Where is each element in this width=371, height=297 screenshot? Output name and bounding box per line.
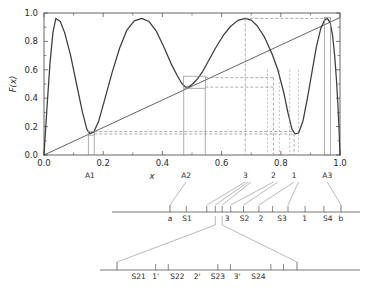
marked-point-label: 2 [271, 171, 276, 180]
figure-root: 0.00.20.40.60.81.00.00.20.40.60.81.0xF(x… [0, 0, 371, 297]
row1-row2-connector [215, 182, 248, 205]
x-tick-label: 0.4 [156, 158, 170, 168]
row3-segment-label: 1' [152, 272, 159, 281]
row3-segment-label: 3' [234, 272, 241, 281]
row2-segment-label: S4 [323, 214, 333, 223]
row1-row2-connector [244, 182, 278, 205]
figure-svg: 0.00.20.40.60.81.00.00.20.40.60.81.0xF(x… [0, 0, 371, 297]
row2-segment-label: S1 [182, 214, 192, 223]
y-tick-label: 0.8 [24, 36, 38, 46]
row2-label-b: b [339, 214, 344, 223]
x-tick-label: 0.6 [215, 158, 229, 168]
fixed-point-label: A3 [322, 171, 332, 180]
row1-row2-connector [288, 182, 299, 205]
row2-segment-label: 2 [259, 214, 264, 223]
row2-segment-label: S3 [277, 214, 287, 223]
fixed-point-label: A1 [85, 171, 95, 180]
y-tick-label: 1.0 [24, 8, 38, 18]
row3-segment-label: 2' [194, 272, 201, 281]
row2-row3-connector-left [117, 225, 215, 262]
row1-row2-connector [170, 182, 186, 205]
y-tick-label: 0.0 [24, 150, 38, 160]
marked-point-label: 3 [243, 171, 248, 180]
x-axis-label: x [148, 171, 155, 181]
x-tick-label: 0.8 [274, 158, 288, 168]
marked-point-label: 1 [292, 171, 297, 180]
fixed-point-box [325, 17, 331, 155]
x-tick-label: 1.0 [333, 158, 347, 168]
row3-segment-label: S23 [211, 272, 226, 281]
row3-segment-label: S24 [251, 272, 266, 281]
y-tick-label: 0.2 [24, 122, 38, 132]
row3-segment-label: S21 [131, 272, 146, 281]
row2-segment-label: 3 [225, 214, 230, 223]
row2-label-a: a [168, 214, 173, 223]
y-tick-label: 0.4 [24, 93, 38, 103]
x-tick-label: 0.2 [96, 158, 110, 168]
row2-segment-label: 1 [302, 214, 307, 223]
row1-row2-connector [327, 182, 341, 205]
x-tick-label: 0.0 [37, 158, 51, 168]
fixed-point-label: A2 [181, 171, 191, 180]
row1-row2-connector [259, 182, 294, 205]
y-tick-label: 0.6 [24, 65, 38, 75]
row2-row3-connector-right [222, 225, 297, 262]
row1-row2-connector [207, 182, 246, 205]
row2-segment-label: S2 [240, 214, 250, 223]
y-axis-label: F(x) [8, 76, 18, 93]
row3-segment-label: S22 [170, 272, 185, 281]
